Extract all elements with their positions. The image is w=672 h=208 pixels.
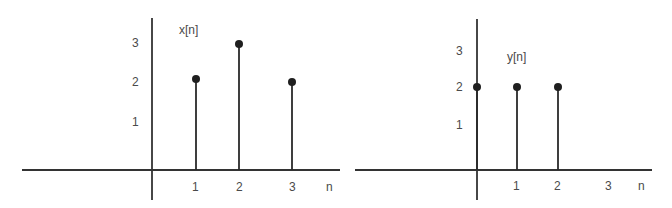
y-tick-2: 2 xyxy=(456,80,463,94)
x-tick-2: 2 xyxy=(236,180,243,194)
x-tick-1: 1 xyxy=(513,179,520,193)
stem-marker-n1 xyxy=(192,75,200,83)
axis-label-n: n xyxy=(326,180,333,194)
stem-plots-canvas: 3 2 1 x[n] 1 2 3 n 3 2 1 y[n] 1 2 3 n xyxy=(0,0,672,208)
y-tick-2: 2 xyxy=(132,75,139,89)
x-tick-1: 1 xyxy=(192,180,199,194)
y-tick-1: 1 xyxy=(132,115,139,129)
axis-label-n: n xyxy=(638,179,645,193)
stem-marker-n0 xyxy=(473,83,481,91)
x-tick-3: 3 xyxy=(605,179,612,193)
signal-label: x[n] xyxy=(179,23,198,37)
y-tick-3: 3 xyxy=(132,36,139,50)
stem-marker-n2 xyxy=(235,40,243,48)
stem-marker-n3 xyxy=(288,78,296,86)
y-tick-1: 1 xyxy=(456,118,463,132)
x-tick-3: 3 xyxy=(289,180,296,194)
plot-y-n: 3 2 1 y[n] 1 2 3 n xyxy=(355,19,652,200)
stem-marker-n1 xyxy=(513,83,521,91)
plot-x-n: 3 2 1 x[n] 1 2 3 n xyxy=(22,18,340,200)
signal-label: y[n] xyxy=(507,50,526,64)
x-tick-2: 2 xyxy=(554,179,561,193)
y-tick-3: 3 xyxy=(456,44,463,58)
stem-marker-n2 xyxy=(554,83,562,91)
